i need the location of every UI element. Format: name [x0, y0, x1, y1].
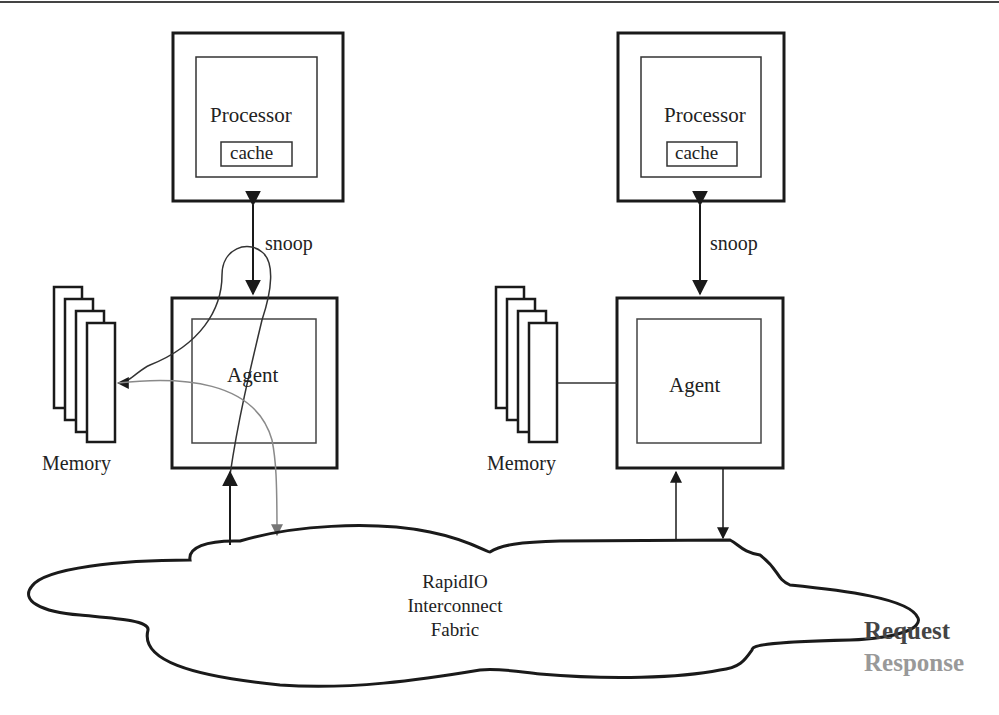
- legend-response: Response: [864, 649, 964, 677]
- fabric-label-line2: Interconnect: [400, 594, 510, 618]
- left-response-path: [118, 380, 277, 535]
- left-processor-label: Processor: [210, 103, 292, 128]
- left-request-path: [118, 247, 271, 545]
- left-memory-stack: [54, 287, 115, 442]
- right-processor-label: Processor: [664, 103, 746, 128]
- left-agent-label: Agent: [227, 363, 278, 388]
- right-cache-label: cache: [675, 142, 718, 164]
- right-memory-label: Memory: [487, 452, 556, 475]
- right-snoop-label: snoop: [710, 232, 758, 255]
- left-snoop-label: snoop: [265, 232, 313, 255]
- left-memory-label: Memory: [42, 452, 111, 475]
- fabric-label-line1: RapidIO: [400, 570, 510, 594]
- legend-request: Request: [864, 617, 950, 645]
- left-cache-label: cache: [230, 142, 273, 164]
- right-agent-label: Agent: [669, 373, 720, 398]
- fabric-label: RapidIO Interconnect Fabric: [400, 570, 510, 642]
- fabric-label-line3: Fabric: [400, 618, 510, 642]
- right-memory-stack: [496, 287, 557, 442]
